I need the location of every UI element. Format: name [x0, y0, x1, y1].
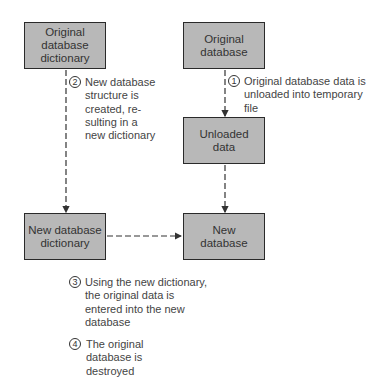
box-new-dictionary: New database dictionary [24, 213, 106, 260]
box-original-dictionary: Original database dictionary [24, 22, 106, 69]
box-label: Original database [194, 33, 254, 59]
box-label: New database [194, 224, 254, 250]
step-3-number: 3 [69, 276, 81, 288]
box-label: Original database dictionary [25, 26, 105, 65]
box-unloaded-data: Unloaded data [183, 117, 265, 164]
step-2-text: New database structure is created, re-su… [85, 76, 157, 142]
box-original-database: Original database [183, 22, 265, 69]
box-new-database: New database [183, 213, 265, 260]
box-label: Unloaded data [194, 128, 254, 154]
box-label: New database dictionary [25, 224, 105, 250]
step-3-text: Using the new dictionary, the original d… [85, 276, 210, 329]
step-2-number: 2 [69, 76, 81, 88]
step-4-text: The original database is destroyed [86, 338, 191, 377]
step-1-number: 1 [228, 75, 240, 87]
step-1-text: Original database data is unloaded into … [244, 75, 374, 115]
step-4-number: 4 [69, 338, 81, 350]
